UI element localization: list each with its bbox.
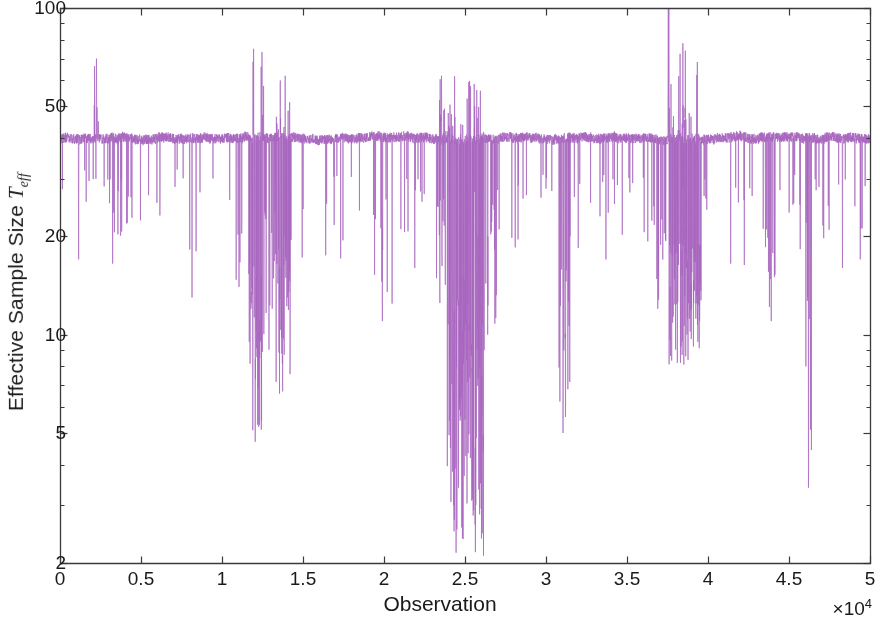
y-tick-label: 2 — [55, 552, 66, 574]
y-tick-label: 5 — [55, 422, 66, 444]
x-tick-label: 5 — [865, 568, 876, 590]
x-axis-multiplier-exponent: 4 — [865, 596, 872, 611]
x-tick-label: 4.5 — [776, 568, 802, 590]
y-axis-label: Effective Sample Size Teff — [4, 122, 32, 462]
y-tick-label: 10 — [45, 324, 66, 346]
y-axis-label-subscript: eff — [16, 173, 31, 187]
x-axis-multiplier: ×104 — [833, 596, 872, 620]
x-tick-label: 4 — [703, 568, 714, 590]
x-tick-label: 0.5 — [128, 568, 154, 590]
y-tick-label: 50 — [45, 95, 66, 117]
y-tick-label: 100 — [34, 0, 66, 19]
x-tick-label: 1.5 — [290, 568, 316, 590]
x-tick-label: 1 — [217, 568, 228, 590]
y-tick-label: 20 — [45, 225, 66, 247]
x-tick-label: 2.5 — [452, 568, 478, 590]
chart-figure: Effective Sample Size Teff Observation ×… — [0, 0, 880, 626]
x-tick-label: 2 — [379, 568, 390, 590]
x-axis-multiplier-prefix: ×10 — [833, 598, 865, 619]
x-tick-label: 3.5 — [614, 568, 640, 590]
x-tick-label: 3 — [541, 568, 552, 590]
effective-sample-size-plot — [0, 0, 880, 626]
x-axis-label: Observation — [0, 592, 880, 616]
y-axis-label-symbol: T — [4, 187, 28, 199]
y-axis-label-text: Effective Sample Size — [4, 199, 27, 411]
